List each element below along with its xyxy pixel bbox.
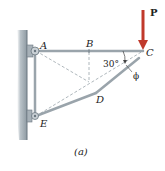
label-phi: ϕ	[133, 71, 139, 81]
wall	[17, 30, 27, 140]
label-e: E	[39, 118, 48, 129]
angle-arrowhead	[123, 60, 127, 64]
pin-support-e	[27, 110, 39, 122]
truss-diagram: A B C D E P 30° ϕ (a)	[0, 0, 165, 171]
label-b: B	[85, 38, 93, 49]
label-angle-30: 30°	[103, 59, 119, 69]
label-d: D	[95, 94, 104, 105]
figure-caption: (a)	[74, 146, 88, 157]
pin-support-a	[27, 45, 39, 57]
dashed-construction-lines	[36, 51, 143, 116]
member-ed	[36, 93, 96, 116]
label-a: A	[39, 40, 47, 51]
label-p: P	[150, 7, 158, 18]
label-c: C	[146, 47, 154, 58]
load-arrow-p	[138, 10, 148, 50]
